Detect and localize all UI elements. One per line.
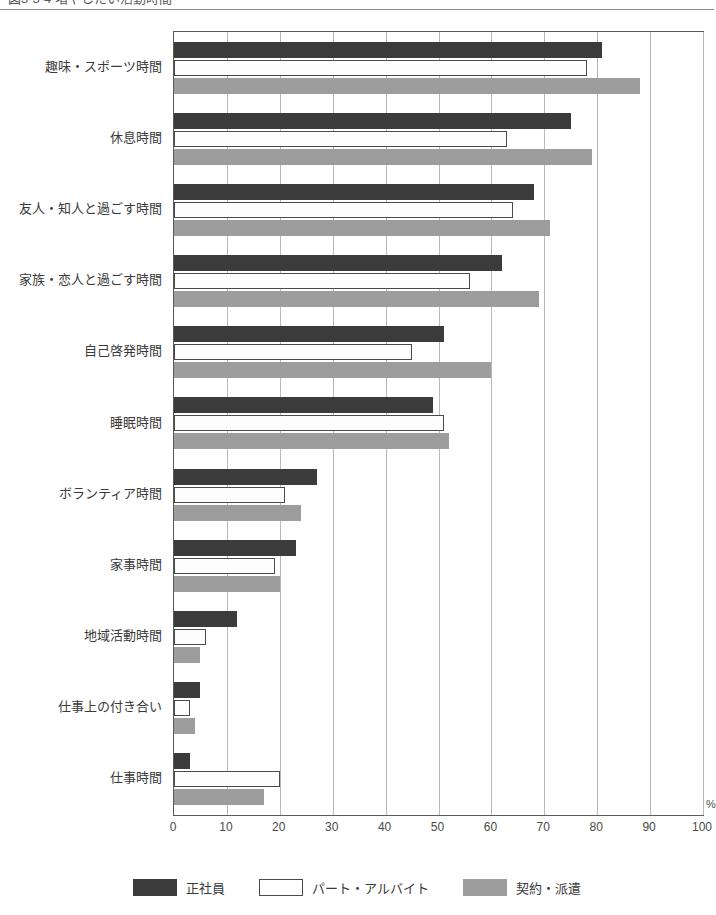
bar-seiShain [174, 753, 190, 769]
bar-seiShain [174, 184, 534, 200]
x-axis-ticks: 0102030405060708090100 [173, 820, 704, 840]
y-axis-label: 睡眠時間 [110, 415, 162, 430]
caption-divider [0, 9, 714, 10]
bar-groups [174, 32, 703, 815]
bar-group [174, 317, 703, 388]
y-axis-label: 休息時間 [110, 130, 162, 145]
bar-group [174, 103, 703, 174]
bar-keiyaku [174, 291, 539, 307]
y-axis-label: 家族・恋人と過ごす時間 [19, 272, 162, 287]
figure-caption-text: 図3-3-4 増やしたい活動時間 [8, 0, 308, 8]
bar-part [174, 131, 507, 147]
bar-part [174, 60, 587, 76]
bar-part [174, 558, 275, 574]
y-axis-label: 友人・知人と過ごす時間 [19, 201, 162, 216]
legend-item: 正社員 [133, 878, 225, 897]
figure-caption: 図3-3-4 増やしたい活動時間 [8, 0, 308, 8]
bar-part [174, 344, 412, 360]
bar-seiShain [174, 540, 296, 556]
bar-keiyaku [174, 576, 280, 592]
bar-part [174, 700, 190, 716]
y-axis-label: 家事時間 [110, 557, 162, 572]
bar-part [174, 487, 285, 503]
legend-label: 契約・派遣 [516, 878, 581, 897]
bar-part [174, 202, 513, 218]
y-axis-label: 地域活動時間 [84, 628, 162, 643]
bar-keiyaku [174, 505, 301, 521]
legend-label: パート・アルバイト [312, 878, 429, 897]
x-axis-tick-label: 100 [692, 820, 712, 834]
bar-keiyaku [174, 362, 491, 378]
bar-seiShain [174, 113, 571, 129]
x-axis-tick-label: 50 [431, 820, 444, 834]
bar-seiShain [174, 42, 602, 58]
bar-seiShain [174, 682, 200, 698]
legend-swatch-icon [463, 879, 507, 896]
bar-keiyaku [174, 647, 200, 663]
axis-unit-label: % [706, 798, 716, 810]
x-axis-tick-label: 20 [272, 820, 285, 834]
bar-keiyaku [174, 433, 449, 449]
y-axis-label: 趣味・スポーツ時間 [45, 59, 162, 74]
x-axis-tick-label: 80 [590, 820, 603, 834]
bar-group [174, 246, 703, 317]
bar-group [174, 673, 703, 744]
bar-keiyaku [174, 78, 640, 94]
gridline [703, 32, 704, 815]
bar-part [174, 273, 470, 289]
bar-keiyaku [174, 220, 550, 236]
legend-swatch-icon [133, 879, 177, 896]
x-axis-tick-label: 10 [219, 820, 232, 834]
x-axis-tick-label: 90 [642, 820, 655, 834]
bar-group [174, 744, 703, 815]
bar-keiyaku [174, 149, 592, 165]
legend-swatch-icon [259, 879, 303, 896]
plot-area [173, 31, 704, 816]
bar-seiShain [174, 469, 317, 485]
x-axis-tick-label: 40 [378, 820, 391, 834]
bar-seiShain [174, 397, 433, 413]
bar-part [174, 771, 280, 787]
y-axis-labels: 趣味・スポーツ時間休息時間友人・知人と過ごす時間家族・恋人と過ごす時間自己啓発時… [0, 31, 168, 816]
bar-group [174, 530, 703, 601]
y-axis-label: 自己啓発時間 [84, 343, 162, 358]
bar-keiyaku [174, 718, 195, 734]
bar-part [174, 415, 444, 431]
bar-keiyaku [174, 789, 264, 805]
bar-part [174, 629, 206, 645]
y-axis-label: 仕事上の付き合い [58, 699, 162, 714]
legend-item: パート・アルバイト [259, 878, 429, 897]
chart-legend: 正社員パート・アルバイト契約・派遣 [0, 872, 714, 902]
bar-seiShain [174, 326, 444, 342]
bar-seiShain [174, 255, 502, 271]
x-axis-tick-label: 70 [537, 820, 550, 834]
y-axis-label: 仕事時間 [110, 770, 162, 785]
x-axis-tick-label: 30 [325, 820, 338, 834]
bar-group [174, 388, 703, 459]
bar-group [174, 32, 703, 103]
legend-label: 正社員 [186, 878, 225, 897]
bar-group [174, 174, 703, 245]
x-axis-tick-label: 0 [170, 820, 177, 834]
x-axis-tick-label: 60 [484, 820, 497, 834]
bar-seiShain [174, 611, 237, 627]
bar-group [174, 601, 703, 672]
bar-group [174, 459, 703, 530]
legend-item: 契約・派遣 [463, 878, 581, 897]
y-axis-label: ボランティア時間 [59, 486, 162, 501]
